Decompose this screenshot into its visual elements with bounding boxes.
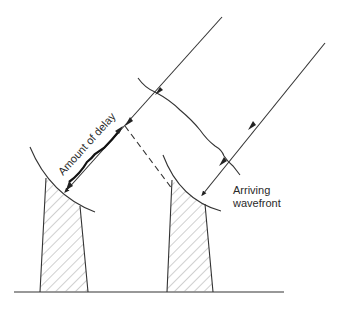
wavefront-label-line2: wavefront	[232, 197, 281, 209]
delay-arrow-bottom	[66, 181, 73, 190]
interferometer-diagram: Amount of delay Arriving wavefront	[0, 0, 340, 311]
right-incoming-ray	[203, 43, 325, 194]
left-tower-body	[40, 178, 88, 292]
left-incoming-ray	[66, 17, 222, 191]
right-tower-body	[167, 180, 213, 292]
wavefront-label-line1: Arriving	[233, 184, 270, 196]
delay-arrow-top	[115, 126, 123, 134]
right-ray-arrow-upper	[248, 121, 256, 130]
dashed-delay-line	[125, 126, 173, 190]
right-antenna	[163, 155, 221, 292]
